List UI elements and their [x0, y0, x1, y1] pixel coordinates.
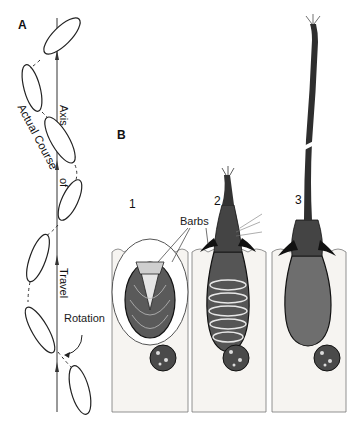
nucleus-3 — [314, 345, 340, 371]
nucleus-1 — [150, 345, 176, 371]
stage-2-label: 2 — [214, 194, 221, 208]
stage-1-label: 1 — [129, 197, 136, 211]
panel-b-drawing — [0, 0, 363, 428]
nematocyst-3 — [285, 256, 331, 346]
tubule-3 — [304, 24, 318, 220]
nucleus-2 — [223, 345, 249, 371]
label-barbs: Barbs — [180, 215, 209, 227]
stage-3-label: 3 — [295, 193, 302, 207]
